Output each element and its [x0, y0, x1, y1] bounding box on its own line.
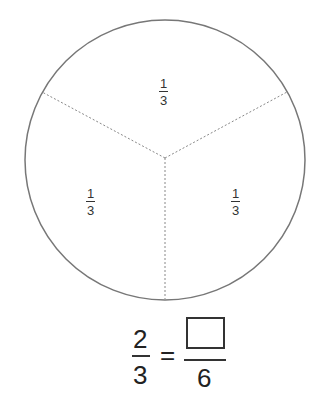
fraction-bar	[231, 201, 240, 202]
section-label-right: 1 3	[231, 187, 240, 217]
divider-right	[165, 92, 287, 158]
numerator: 1	[160, 77, 167, 90]
right-denominator: 6	[197, 363, 211, 394]
left-fraction-bar	[132, 355, 150, 357]
numerator: 1	[232, 187, 239, 200]
section-label-top: 1 3	[159, 77, 168, 107]
divider-left	[42, 92, 165, 158]
denominator: 3	[87, 204, 94, 217]
numerator: 1	[87, 187, 94, 200]
left-denominator: 3	[133, 360, 147, 391]
denominator: 3	[232, 204, 239, 217]
section-label-left: 1 3	[86, 187, 95, 217]
answer-box[interactable]	[186, 317, 225, 349]
fraction-circle-diagram	[0, 0, 323, 397]
left-numerator: 2	[133, 324, 147, 355]
fraction-bar	[159, 91, 168, 92]
denominator: 3	[160, 94, 167, 107]
equals-sign: =	[160, 340, 175, 371]
fraction-bar	[86, 201, 95, 202]
right-fraction-bar	[184, 359, 226, 361]
